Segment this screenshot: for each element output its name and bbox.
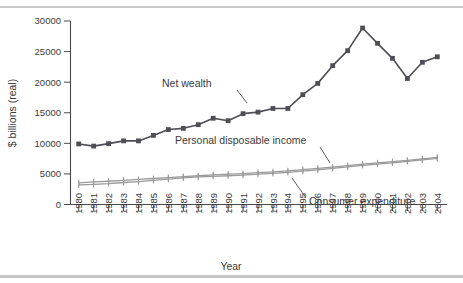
x-axis-tick-label: 1983	[118, 193, 129, 214]
y-axis-tick-label: 30000	[35, 15, 61, 26]
data-point	[271, 106, 276, 111]
data-point	[300, 92, 305, 97]
x-axis-tick-label: 1989	[208, 193, 219, 214]
series-net-wealth	[76, 26, 439, 149]
data-point	[285, 106, 290, 111]
x-axis-tick-label: 1995	[297, 193, 308, 214]
figure-bottom-rule	[0, 275, 463, 278]
y-axis: 050001000015000200002500030000	[35, 15, 71, 210]
annotation-consumer-expenditure: Consumer expenditure	[309, 195, 415, 207]
data-point	[91, 144, 96, 149]
data-point	[181, 126, 186, 131]
data-point	[405, 76, 410, 81]
y-axis-tick-label: 20000	[35, 77, 61, 88]
data-point	[420, 60, 425, 65]
data-point	[166, 127, 171, 132]
data-point	[435, 54, 440, 59]
x-axis-tick-label: 1981	[88, 193, 99, 214]
data-point	[241, 111, 246, 116]
y-axis-tick-label: 25000	[35, 46, 61, 57]
svg-text:$ billions (real): $ billions (real)	[6, 79, 18, 147]
y-axis-tick-label: 15000	[35, 107, 61, 118]
data-point	[121, 138, 126, 143]
data-point	[196, 122, 201, 127]
annotation-personal-disposable-income: Personal disposable income	[175, 134, 306, 146]
data-point	[375, 41, 380, 46]
data-point	[256, 110, 261, 115]
x-axis-title: Year	[220, 260, 242, 272]
x-axis-tick-label: 1986	[163, 193, 174, 214]
y-axis-title: $ billions (real)	[6, 79, 18, 147]
annotation-net-wealth: Net wealth	[162, 77, 212, 89]
y-axis-tick-label: 5000	[40, 168, 61, 179]
data-point	[226, 118, 231, 123]
line-chart: $ billions (real) 0500010000150002000025…	[0, 0, 463, 283]
x-axis-tick-label: 1991	[238, 193, 249, 214]
figure-top-rule	[0, 6, 463, 8]
x-axis-tick-label: 1992	[253, 193, 264, 214]
x-axis-tick-label: 1987	[178, 193, 189, 214]
leader-net-wealth	[237, 90, 247, 103]
x-axis-tick-label: 1985	[148, 193, 159, 214]
data-point	[211, 116, 216, 121]
data-point	[76, 142, 81, 147]
data-point	[390, 56, 395, 61]
x-axis-tick-label: 1990	[223, 193, 234, 214]
x-axis-tick-label: 1984	[133, 193, 144, 214]
data-point	[151, 133, 156, 138]
series-consumer-expenditure	[79, 155, 438, 188]
x-axis-tick-label: 2004	[432, 193, 443, 214]
series-line	[79, 28, 438, 146]
y-axis-tick-label: 10000	[35, 138, 61, 149]
data-point	[315, 81, 320, 86]
leader-personal-disposable-income	[320, 147, 330, 163]
x-axis-tick-label: 1988	[193, 193, 204, 214]
series-layer	[76, 26, 439, 188]
x-axis-tick-label: 2003	[417, 193, 428, 214]
data-point	[360, 26, 365, 31]
x-axis-tick-label: 1982	[103, 193, 114, 214]
data-point	[106, 141, 111, 146]
data-point	[345, 48, 350, 53]
data-point	[136, 138, 141, 143]
x-axis-tick-label: 1993	[268, 193, 279, 214]
x-axis-tick-label: 1980	[73, 193, 84, 214]
x-axis-tick-label: 1994	[282, 193, 293, 214]
series-personal-disposable-income	[79, 154, 438, 186]
y-axis-tick-label: 0	[56, 199, 61, 210]
chart-figure: $ billions (real) 0500010000150002000025…	[0, 0, 463, 283]
data-point	[330, 63, 335, 68]
